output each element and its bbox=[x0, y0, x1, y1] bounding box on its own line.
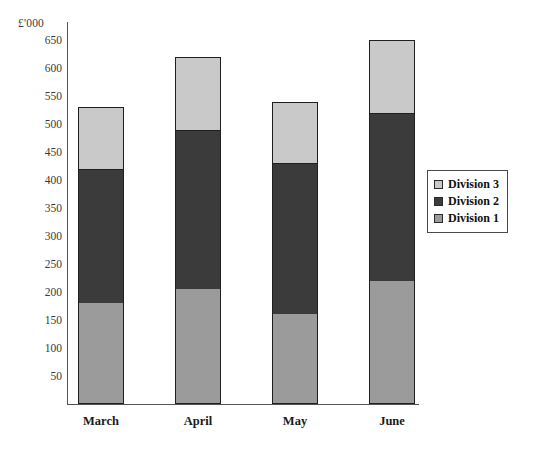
bar-segment-division-1-june bbox=[369, 281, 415, 404]
legend-swatch-division-1 bbox=[434, 214, 443, 223]
plot-area bbox=[68, 40, 416, 404]
y-axis-tick-450: 450 bbox=[16, 146, 62, 158]
bar-segment-division-1-april bbox=[175, 289, 221, 404]
y-axis-tick-350: 350 bbox=[16, 202, 62, 214]
y-axis-tick-300: 300 bbox=[16, 230, 62, 242]
y-axis-tick-200: 200 bbox=[16, 286, 62, 298]
legend-swatch-division-2 bbox=[434, 197, 443, 206]
chart-legend: Division 3Division 2Division 1 bbox=[427, 170, 508, 233]
bar-stack bbox=[175, 57, 221, 404]
y-axis-tick-600: 600 bbox=[16, 62, 62, 74]
bar-segment-division-3-march bbox=[78, 107, 124, 169]
y-axis-tick-150: 150 bbox=[16, 314, 62, 326]
bar-stack bbox=[78, 107, 124, 404]
bar-stack bbox=[272, 102, 318, 404]
legend-item-division-1[interactable]: Division 1 bbox=[434, 210, 499, 227]
x-axis-line bbox=[67, 404, 419, 405]
legend-swatch-division-3 bbox=[434, 180, 443, 189]
y-axis-tick-100: 100 bbox=[16, 342, 62, 354]
legend-label: Division 3 bbox=[448, 177, 499, 192]
legend-label: Division 1 bbox=[448, 211, 499, 226]
legend-item-division-3[interactable]: Division 3 bbox=[434, 176, 499, 193]
bar-segment-division-3-may bbox=[272, 102, 318, 164]
bar-stack bbox=[369, 40, 415, 404]
y-axis-tick-550: 550 bbox=[16, 90, 62, 102]
bar-segment-division-2-april bbox=[175, 130, 221, 290]
y-axis-tick-250: 250 bbox=[16, 258, 62, 270]
legend-label: Division 2 bbox=[448, 194, 499, 209]
x-axis-category-may: May bbox=[250, 414, 340, 429]
bar-group-april bbox=[175, 40, 221, 404]
x-axis-category-june: June bbox=[347, 414, 437, 429]
bar-segment-division-3-april bbox=[175, 57, 221, 130]
bar-group-march bbox=[78, 40, 124, 404]
bar-segment-division-1-march bbox=[78, 303, 124, 404]
y-axis-tick-50: 50 bbox=[16, 370, 62, 382]
bar-segment-division-2-may bbox=[272, 163, 318, 314]
x-axis-category-march: March bbox=[56, 414, 146, 429]
stacked-bar-chart: £'000 5010015020025030035040045050055060… bbox=[0, 0, 547, 449]
bar-segment-division-1-may bbox=[272, 314, 318, 404]
bar-group-june bbox=[369, 40, 415, 404]
x-axis-category-april: April bbox=[153, 414, 243, 429]
bar-group-may bbox=[272, 40, 318, 404]
bar-segment-division-2-march bbox=[78, 169, 124, 303]
y-axis-tick-500: 500 bbox=[16, 118, 62, 130]
y-axis-tick-labels: 50100150200250300350400450500550600650 bbox=[10, 0, 62, 449]
chart-title bbox=[0, 0, 547, 3]
y-axis-tick-650: 650 bbox=[16, 34, 62, 46]
legend-item-division-2[interactable]: Division 2 bbox=[434, 193, 499, 210]
y-axis-tick-400: 400 bbox=[16, 174, 62, 186]
bar-segment-division-2-june bbox=[369, 113, 415, 281]
bar-segment-division-3-june bbox=[369, 40, 415, 113]
